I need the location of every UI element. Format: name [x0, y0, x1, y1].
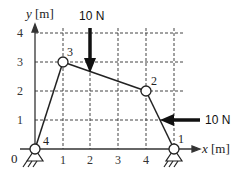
- svg-text:2: 2: [151, 74, 157, 88]
- load-horizontal: 10 N: [160, 113, 230, 127]
- svg-text:4: 4: [43, 134, 49, 148]
- y-axis-label: y [m]: [24, 6, 54, 21]
- truss-diagram: y [m] x [m] 0 1 2 3 4 1 2 3 4 4: [0, 0, 239, 176]
- truss-nodes: [30, 57, 179, 154]
- y-axis-arrow-icon: [32, 24, 38, 32]
- svg-text:3: 3: [115, 153, 121, 167]
- svg-text:3: 3: [67, 45, 73, 59]
- svg-text:4: 4: [17, 26, 23, 40]
- axes: [20, 24, 200, 152]
- svg-text:4: 4: [143, 153, 149, 167]
- svg-text:1: 1: [178, 132, 184, 146]
- x-axis-arrow-icon: [192, 146, 200, 152]
- svg-text:2: 2: [17, 84, 23, 98]
- svg-text:3: 3: [17, 55, 23, 69]
- load-vertical: 10 N: [79, 9, 104, 73]
- svg-text:2: 2: [87, 153, 93, 167]
- member-3-2: [63, 62, 146, 91]
- node-4: [30, 144, 40, 154]
- svg-text:10 N: 10 N: [79, 9, 104, 23]
- x-axis-label: x [m]: [201, 141, 230, 156]
- node-2: [141, 86, 151, 96]
- svg-text:10 N: 10 N: [205, 113, 230, 127]
- svg-text:1: 1: [60, 153, 66, 167]
- member-4-3: [35, 62, 63, 149]
- grid: [35, 28, 185, 149]
- svg-text:1: 1: [17, 113, 23, 127]
- origin-label: 0: [11, 151, 18, 166]
